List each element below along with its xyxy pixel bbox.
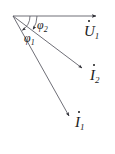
angle-symbol-phi2: φ (37, 18, 44, 32)
phasor-overdot-i1 (78, 111, 80, 113)
vector-label-i1: I1 (75, 114, 85, 132)
phasor-diagram-figure: U1 I2 I1 φ2 φ1 (0, 0, 115, 154)
vector-symbol-i1: I (75, 114, 80, 130)
vector-label-u1: U1 (84, 23, 99, 41)
angle-symbol-phi1: φ (24, 31, 31, 45)
angle-label-phi1: φ1 (24, 29, 35, 47)
vector-symbol-i2: I (90, 67, 95, 83)
phasor-overdot-i2 (93, 64, 95, 66)
vector-subscript-i2: 2 (95, 75, 100, 85)
vector-subscript-u1: 1 (95, 31, 100, 41)
angle-label-phi2: φ2 (37, 16, 48, 34)
angle-subscript-phi2: 2 (44, 25, 48, 34)
angle-subscript-phi1: 1 (31, 38, 35, 47)
vector-subscript-i1: 1 (80, 122, 85, 132)
phasor-overdot-u1 (88, 20, 90, 22)
vector-label-i2: I2 (90, 67, 100, 85)
vector-symbol-u1: U (84, 23, 95, 39)
